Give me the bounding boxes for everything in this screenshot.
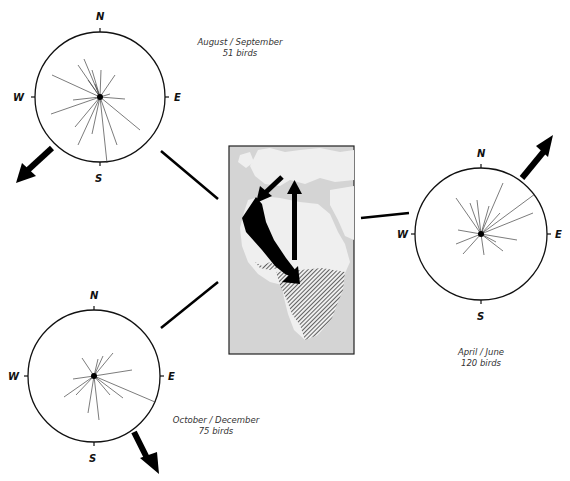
label-west: W: [397, 229, 409, 240]
count-label: 120 birds: [441, 358, 521, 369]
mean-direction-arrow: [134, 432, 148, 460]
migration-diagram: N W E S N W E S: [0, 0, 570, 481]
migration-map: [229, 146, 354, 354]
count-label: 75 birds: [166, 426, 266, 437]
europe-land: [250, 148, 354, 186]
caption-apr-jun: April / June 120 birds: [441, 347, 521, 369]
caption-oct-dec: October / December 75 birds: [166, 415, 266, 437]
label-east: E: [168, 371, 175, 382]
label-west: W: [8, 371, 20, 382]
label-south: S: [95, 173, 102, 184]
compass-oct-dec: N W E S: [8, 290, 175, 474]
label-south: S: [89, 453, 96, 464]
label-east: E: [555, 229, 562, 240]
compass-apr-jun: N W E S: [397, 135, 562, 322]
period-label: August / September: [190, 37, 290, 48]
connector-oct-dec: [161, 282, 218, 328]
period-label: October / December: [166, 415, 266, 426]
connector-aug-sep: [161, 151, 218, 199]
label-west: W: [13, 92, 25, 103]
period-label: April / June: [441, 347, 521, 358]
mean-direction-arrow: [28, 148, 52, 170]
label-east: E: [174, 92, 181, 103]
label-north: N: [90, 290, 99, 301]
count-label: 51 birds: [190, 48, 290, 59]
label-south: S: [477, 311, 484, 322]
spring-route: [292, 192, 297, 260]
label-north: N: [477, 148, 486, 159]
caption-aug-sep: August / September 51 birds: [190, 37, 290, 59]
mean-direction-arrow: [522, 150, 545, 178]
compass-aug-sep: N W E S: [13, 11, 181, 184]
connector-apr-jun: [361, 213, 409, 218]
label-north: N: [96, 11, 105, 22]
